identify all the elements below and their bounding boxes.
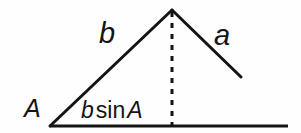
- triangle-figure: A b a bsinA: [0, 0, 301, 133]
- altitude-argument-A: A: [127, 97, 142, 123]
- triangle-diagram-svg: [0, 0, 301, 133]
- angle-A-label: A: [24, 96, 41, 121]
- side-a-label: a: [214, 21, 230, 50]
- altitude-expression-label: bsinA: [81, 99, 143, 122]
- side-b-label: b: [99, 19, 115, 48]
- altitude-function-sin: sin: [96, 97, 125, 123]
- side-a-segment: [172, 10, 241, 77]
- altitude-variable-b: b: [81, 97, 94, 123]
